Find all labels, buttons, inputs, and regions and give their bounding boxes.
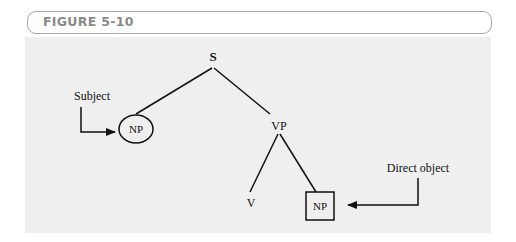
direct-object-annotation: Direct object xyxy=(387,161,450,175)
object-np-label: NP xyxy=(313,200,327,212)
syntax-tree-diagram: S NP Subject VP V NP Direct object xyxy=(0,0,516,242)
node-vp: VP xyxy=(271,119,287,133)
subject-arrow-icon xyxy=(81,107,115,132)
edge-s-np xyxy=(136,68,212,114)
node-subject-np: NP xyxy=(119,115,153,143)
node-s: S xyxy=(209,49,216,64)
direct-object-arrow-icon xyxy=(348,178,418,205)
edge-vp-v xyxy=(250,134,278,192)
tree-edges xyxy=(136,68,316,192)
node-v: V xyxy=(247,196,256,210)
edge-s-vp xyxy=(214,68,270,114)
edge-vp-np xyxy=(280,134,316,192)
subject-annotation: Subject xyxy=(74,89,111,103)
node-object-np: NP xyxy=(306,192,334,220)
subject-np-label: NP xyxy=(129,123,143,135)
